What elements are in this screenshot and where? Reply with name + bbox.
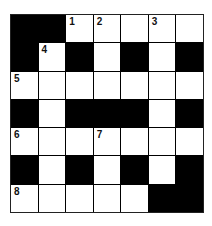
- answer-cell[interactable]: [121, 185, 148, 212]
- block-cell: [11, 156, 38, 183]
- answer-cell[interactable]: [94, 156, 121, 183]
- answer-cell[interactable]: [94, 72, 121, 99]
- answer-cell[interactable]: [149, 43, 176, 70]
- answer-cell[interactable]: [66, 185, 93, 212]
- answer-cell[interactable]: [121, 72, 148, 99]
- block-cell: [66, 43, 93, 70]
- block-cell: [66, 100, 93, 127]
- clue-number: 4: [42, 44, 48, 55]
- answer-cell[interactable]: 2: [94, 15, 121, 42]
- block-cell: [121, 43, 148, 70]
- answer-cell[interactable]: 7: [94, 128, 121, 155]
- block-cell: [11, 43, 38, 70]
- block-cell: [121, 100, 148, 127]
- block-cell: [149, 185, 176, 212]
- clue-number: 2: [97, 16, 103, 27]
- clue-number: 3: [152, 16, 158, 27]
- answer-cell[interactable]: 5: [11, 72, 38, 99]
- answer-cell[interactable]: [39, 128, 66, 155]
- answer-cell[interactable]: [121, 128, 148, 155]
- block-cell: [11, 15, 38, 42]
- block-cell: [94, 100, 121, 127]
- clue-number: 7: [97, 129, 103, 140]
- block-cell: [121, 156, 148, 183]
- block-cell: [66, 156, 93, 183]
- block-cell: [39, 15, 66, 42]
- answer-cell[interactable]: [149, 156, 176, 183]
- answer-cell[interactable]: [39, 156, 66, 183]
- answer-cell[interactable]: 8: [11, 185, 38, 212]
- block-cell: [11, 100, 38, 127]
- answer-cell[interactable]: [149, 128, 176, 155]
- answer-cell[interactable]: [149, 100, 176, 127]
- answer-cell[interactable]: [66, 72, 93, 99]
- answer-cell[interactable]: [149, 72, 176, 99]
- answer-cell[interactable]: [121, 15, 148, 42]
- answer-cell[interactable]: 4: [39, 43, 66, 70]
- answer-cell[interactable]: [39, 100, 66, 127]
- block-cell: [176, 185, 203, 212]
- answer-cell[interactable]: 1: [66, 15, 93, 42]
- answer-cell[interactable]: [176, 72, 203, 99]
- answer-cell[interactable]: 6: [11, 128, 38, 155]
- clue-number: 6: [14, 129, 20, 140]
- clue-number: 8: [14, 186, 20, 197]
- answer-cell[interactable]: [94, 43, 121, 70]
- answer-cell[interactable]: [39, 72, 66, 99]
- clue-number: 1: [69, 16, 75, 27]
- answer-cell[interactable]: [66, 128, 93, 155]
- answer-cell[interactable]: [39, 185, 66, 212]
- block-cell: [176, 43, 203, 70]
- clue-number: 5: [14, 73, 20, 84]
- block-cell: [176, 156, 203, 183]
- answer-cell[interactable]: [176, 15, 203, 42]
- answer-cell[interactable]: 3: [149, 15, 176, 42]
- answer-cell[interactable]: [176, 128, 203, 155]
- crossword-grid: 12345678: [10, 14, 204, 213]
- answer-cell[interactable]: [94, 185, 121, 212]
- block-cell: [176, 100, 203, 127]
